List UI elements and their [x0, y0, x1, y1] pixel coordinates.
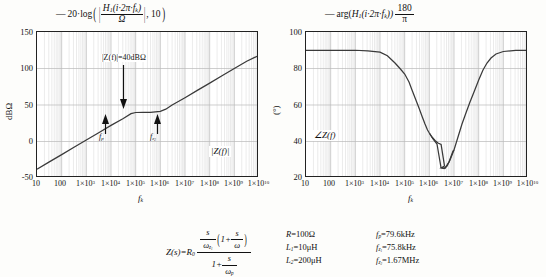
magnitude-value-annotation-text: |Z(f)|=40dBΩ [102, 53, 146, 62]
equation-den-one: 1+ [212, 260, 223, 270]
phase-xtick-6: 1×107 [440, 180, 467, 188]
param-row-R: R=100Ω [286, 228, 322, 241]
phase-legend-fraction: 180 π [395, 4, 413, 25]
param-fz1-value: =75.8kHz [382, 242, 416, 252]
magnitude-xtick-4: 1×105 [122, 180, 149, 188]
legend-close-paren: ) [162, 6, 165, 22]
equation-s-numerator: s [200, 228, 215, 240]
legend-open-paren: ( [94, 6, 97, 22]
fz2-marker-label: fz2 [149, 133, 157, 142]
equation-den-s: s [222, 254, 236, 266]
equation-wz1-denominator: ωz1 [200, 240, 215, 252]
magnitude-xtick-8: 1×109 [220, 180, 247, 188]
magnitude-xtick-3: 1×104 [97, 180, 124, 188]
minor-gridlines [313, 32, 526, 177]
magnitude-xtick-9: 1×1010 [244, 180, 273, 188]
fz2-subscript: z2 [152, 136, 155, 141]
magnitude-curve-label: |Z(f)| [209, 146, 231, 157]
phase-xtick-2: 1×103 [341, 180, 368, 188]
equation-denominator: 1+ s ωp [197, 253, 251, 277]
equation-s-over-wz1: s ωz1 [200, 228, 215, 251]
param-fz2-value: =1.67MHz [382, 255, 419, 265]
magnitude-yaxis-title: dBΩ [5, 103, 14, 120]
legend-abs-bar-close: | [144, 6, 145, 22]
phase-xtick-4: 1×105 [391, 180, 418, 188]
param-R-value: =100Ω [291, 229, 315, 239]
legend-h-arg-close: ) [138, 3, 141, 13]
param-row-L2: L2=200μH [286, 254, 322, 267]
magnitude-xtick-6: 1×107 [171, 180, 198, 188]
equation-s-over-wp: s ωp [222, 254, 236, 277]
magnitude-xaxis-title: fk [138, 194, 143, 204]
magnitude-xtick-5: 1×106 [146, 180, 173, 188]
param-L1-value: =10μH [293, 242, 317, 252]
equation-inner-omega: ω [231, 240, 243, 251]
phase-legend-h-symbol: H [352, 9, 359, 19]
param-fp-value: =79.6kHz [381, 229, 415, 239]
phase-xtick-9: 1×1010 [513, 180, 542, 188]
phase-xaxis-title: fk [408, 194, 413, 204]
legend-line-sample: — [56, 9, 65, 19]
magnitude-ytick-100: 100 [6, 64, 33, 73]
phase-legend-arg: (i·2π·f [361, 9, 384, 19]
magnitude-value-annotation: |Z(f)|=40dBΩ [101, 54, 147, 62]
phase-ytick-40: 40 [276, 137, 302, 146]
magnitude-plot-area: |Z(f)|=40dBΩ fp fz2 |Z(f)| [36, 31, 258, 177]
magnitude-xtick-7: 1×108 [196, 180, 223, 188]
magnitude-xtick-1: 100 [51, 180, 69, 188]
phase-legend-fraction-denominator: π [395, 15, 413, 25]
phase-xaxis-subscript: k [411, 197, 413, 203]
phase-grid-and-curve [306, 32, 527, 177]
legend-func-label: 20·log [68, 9, 93, 19]
fz2-marker-arrow [153, 114, 162, 134]
magnitude-legend: —20·log(| H1(i·2π·fk) Ω |, 10) [56, 4, 166, 25]
equation-open-paren: ( [217, 231, 220, 248]
param-row-fz1: fz1=75.8kHz [376, 241, 419, 254]
legend-h-arg: (i·2π·f [113, 3, 136, 13]
equation-den-wp: ωp [222, 266, 236, 277]
phase-plot-area: ∠Z(f) [305, 31, 527, 177]
magnitude-ytick-0: 0 [6, 137, 33, 146]
parameter-list-left: R=100Ω L1=10μH L2=200μH [286, 228, 322, 266]
equation-lhs: Z(s)=R0 [166, 247, 195, 257]
equation-main-fraction: s ωz1 (1+ s ω ) 1+ s ωp [197, 228, 251, 277]
phase-ytick-100: 100 [276, 28, 302, 37]
phase-xtick-5: 1×106 [415, 180, 442, 188]
phase-legend-close: )) [387, 9, 393, 19]
equation-s-over-w: s ω [231, 229, 243, 251]
param-row-fp: fp=79.6kHz [376, 228, 419, 241]
phase-legend-line-sample: — [325, 9, 334, 19]
magnitude-xaxis-subscript: k [141, 197, 143, 203]
param-row-fz2: fz2=1.67MHz [376, 254, 419, 267]
equation-inner-s: s [231, 229, 243, 241]
impedance-equation: Z(s)=R0 s ωz1 (1+ s ω ) 1+ s ωp [166, 228, 251, 277]
param-row-L1: L1=10μH [286, 241, 322, 254]
parameter-list-right: fp=79.6kHz fz1=75.8kHz fz2=1.67MHz [376, 228, 419, 266]
legend-h-symbol: H [103, 3, 110, 13]
magnitude-ytick-150: 150 [6, 28, 33, 37]
phase-yaxis-title: (°) [272, 105, 281, 115]
magnitude-xtick-2: 1×103 [72, 180, 99, 188]
legend-fraction-denominator: Ω [101, 15, 143, 25]
equation-close-paren: ) [244, 231, 247, 248]
phase-xtick-8: 1×109 [489, 180, 516, 188]
phase-xtick-0: 10 [296, 180, 314, 188]
phase-xtick-3: 1×104 [366, 180, 393, 188]
legend-base: , 10 [146, 9, 160, 19]
phase-legend-func-label: arg( [337, 9, 352, 19]
equation-inner-one: 1+ [221, 234, 232, 244]
fp-marker-arrow [101, 114, 110, 134]
equation-numerator: s ωz1 (1+ s ω ) [197, 228, 251, 253]
fp-marker-label: fp [98, 133, 105, 142]
legend-abs-bar-open: | [99, 6, 100, 22]
phase-xtick-1: 100 [320, 180, 338, 188]
legend-fraction: H1(i·2π·fk) Ω [101, 4, 143, 25]
magnitude-xtick-0: 10 [27, 180, 45, 188]
phase-ytick-80: 80 [276, 64, 302, 73]
phase-curve-label: ∠Z(f) [312, 130, 338, 141]
param-L2-value: =200μH [293, 255, 321, 265]
magnitude-value-arrow [119, 65, 128, 109]
phase-legend: —arg(H1(i·2π·fk)) 180 π [325, 4, 414, 25]
phase-xtick-7: 1×108 [465, 180, 492, 188]
